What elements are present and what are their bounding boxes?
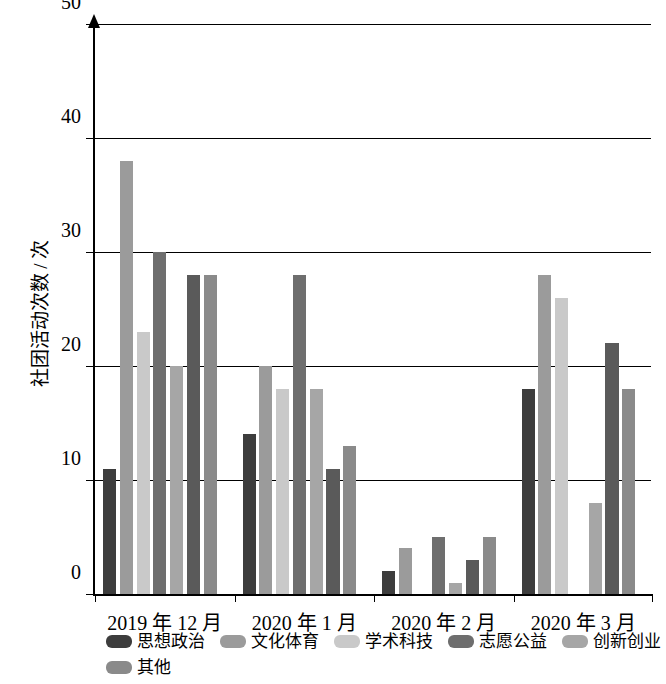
legend-item: 文化体育 bbox=[220, 633, 319, 650]
y-tick-label: 50 bbox=[61, 0, 81, 14]
y-tick-label: 10 bbox=[61, 447, 81, 470]
y-tick-mark bbox=[86, 252, 94, 253]
bar bbox=[555, 298, 568, 594]
bar bbox=[343, 446, 356, 594]
bar bbox=[293, 275, 306, 594]
legend-row-2: 其他 bbox=[106, 654, 666, 680]
y-tick-mark bbox=[86, 24, 94, 25]
x-axis-divider bbox=[95, 594, 96, 602]
legend-item: 志愿公益 bbox=[448, 633, 547, 650]
y-axis-title: 社团活动次数 / 次 bbox=[25, 184, 52, 444]
x-axis-divider bbox=[514, 594, 515, 602]
bar bbox=[449, 583, 462, 594]
bar bbox=[137, 332, 150, 594]
bar bbox=[522, 389, 535, 594]
bar bbox=[187, 275, 200, 594]
y-tick-mark bbox=[86, 138, 94, 139]
bar bbox=[605, 343, 618, 594]
plot-area: 01020304050 2019 年 12 月2020 年 1 月2020 年 … bbox=[93, 14, 653, 596]
x-axis-divider bbox=[235, 594, 236, 602]
bar bbox=[466, 560, 479, 594]
bar bbox=[276, 389, 289, 594]
bar-series-container: 2019 年 12 月2020 年 1 月2020 年 2 月2020 年 3 … bbox=[95, 24, 653, 594]
legend-swatch-icon bbox=[106, 635, 132, 648]
x-axis-divider bbox=[374, 594, 375, 602]
legend-swatch-icon bbox=[220, 635, 246, 648]
bar-group: 2020 年 3 月 bbox=[514, 24, 654, 594]
bar-group: 2019 年 12 月 bbox=[95, 24, 235, 594]
legend-row-1: 思想政治文化体育学术科技志愿公益创新创业自律互助 bbox=[106, 628, 666, 654]
x-axis-line bbox=[93, 594, 653, 596]
bar-group: 2020 年 2 月 bbox=[374, 24, 514, 594]
bar bbox=[483, 537, 496, 594]
y-tick-label: 0 bbox=[71, 561, 81, 584]
y-tick-label: 40 bbox=[61, 105, 81, 128]
chart-figure: 社团活动次数 / 次 01020304050 2019 年 12 月2020 年… bbox=[0, 0, 666, 684]
legend-label: 文化体育 bbox=[251, 633, 319, 650]
bar bbox=[432, 537, 445, 594]
bar bbox=[103, 469, 116, 594]
bar bbox=[538, 275, 551, 594]
bar bbox=[310, 389, 323, 594]
bar bbox=[120, 161, 133, 594]
legend-label: 学术科技 bbox=[365, 633, 433, 650]
bar bbox=[622, 389, 635, 594]
bar-group: 2020 年 1 月 bbox=[235, 24, 375, 594]
chart-legend: 思想政治文化体育学术科技志愿公益创新创业自律互助 其他 bbox=[106, 628, 666, 680]
legend-swatch-icon bbox=[106, 661, 132, 674]
legend-item: 学术科技 bbox=[334, 633, 433, 650]
legend-label: 志愿公益 bbox=[479, 633, 547, 650]
legend-label: 创新创业 bbox=[593, 633, 661, 650]
bar bbox=[589, 503, 602, 594]
legend-label: 其他 bbox=[137, 659, 171, 676]
legend-item: 思想政治 bbox=[106, 633, 205, 650]
y-tick-mark bbox=[86, 366, 94, 367]
bar bbox=[259, 366, 272, 594]
bar bbox=[153, 252, 166, 594]
y-tick-mark bbox=[86, 480, 94, 481]
legend-item: 其他 bbox=[106, 659, 171, 676]
x-axis-divider bbox=[652, 594, 653, 602]
legend-swatch-icon bbox=[562, 635, 588, 648]
bar bbox=[382, 571, 395, 594]
y-tick-mark bbox=[86, 594, 94, 595]
bar bbox=[170, 366, 183, 594]
y-tick-label: 20 bbox=[61, 333, 81, 356]
y-tick-label: 30 bbox=[61, 219, 81, 242]
legend-swatch-icon bbox=[334, 635, 360, 648]
legend-swatch-icon bbox=[448, 635, 474, 648]
bar bbox=[243, 434, 256, 594]
legend-label: 思想政治 bbox=[137, 633, 205, 650]
bar bbox=[204, 275, 217, 594]
bar bbox=[326, 469, 339, 594]
bar bbox=[399, 548, 412, 594]
legend-item: 创新创业 bbox=[562, 633, 661, 650]
